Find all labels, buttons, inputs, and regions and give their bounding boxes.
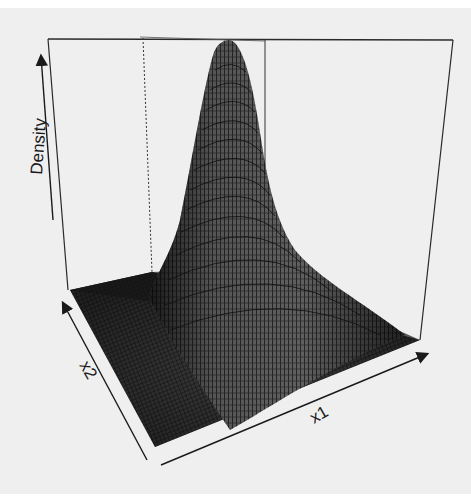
x-axis-label: x1 xyxy=(307,402,332,427)
z-axis-label: Density xyxy=(27,117,50,175)
y-axis-label: x2 xyxy=(76,358,101,383)
figure: Density x2 x1 xyxy=(0,0,471,502)
hidden-box-edge xyxy=(143,38,152,272)
surface-plot: Density x2 x1 xyxy=(0,0,471,502)
